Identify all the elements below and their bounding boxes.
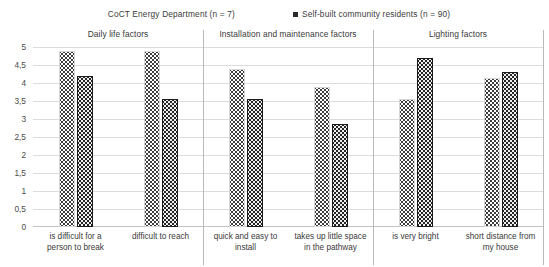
bar-light xyxy=(59,51,75,227)
y-tick-label: 4 xyxy=(21,78,26,88)
y-tick-label: 1,5 xyxy=(14,168,26,178)
legend-label-self-built: Self-built community residents (n = 90) xyxy=(302,9,450,19)
category-label: short distance from my house xyxy=(461,232,540,253)
grouped-bar-chart: CoCT Energy Department (n = 7) Self-buil… xyxy=(0,0,549,267)
axis-baseline xyxy=(33,226,543,227)
gridline xyxy=(33,119,543,120)
panel-separator xyxy=(203,30,204,265)
bar-dark xyxy=(332,124,348,227)
bar-dark xyxy=(77,76,93,227)
category-label: is difficult for a person to break xyxy=(36,232,115,253)
y-tick-label: 1 xyxy=(21,186,26,196)
category-label: is very bright xyxy=(376,232,455,243)
y-tick-label: 3 xyxy=(21,114,26,124)
bar-light xyxy=(399,99,415,227)
panel-separator xyxy=(543,30,544,265)
gridline xyxy=(33,65,543,66)
bar-dark xyxy=(162,99,178,227)
panel-title: Lighting factors xyxy=(373,29,543,39)
gridline xyxy=(33,191,543,192)
category-label: difficult to reach xyxy=(121,232,200,243)
y-tick-label: 4,5 xyxy=(14,60,26,70)
gridline xyxy=(33,137,543,138)
gridline xyxy=(33,101,543,102)
y-tick-label: 5 xyxy=(21,42,26,52)
gridline xyxy=(33,155,543,156)
bar-dark xyxy=(247,99,263,227)
bar-light xyxy=(484,78,500,227)
y-axis-tick-labels: 54,543,532,521,510,50 xyxy=(0,47,30,227)
dark-dotted-swatch-icon xyxy=(293,12,298,17)
gridline xyxy=(33,47,543,48)
gridline xyxy=(33,83,543,84)
plot-area xyxy=(33,47,543,227)
panel-title: Installation and maintenance factors xyxy=(203,29,373,39)
bar-light xyxy=(314,87,330,227)
y-tick-label: 0 xyxy=(21,222,26,232)
gridline xyxy=(33,173,543,174)
panel-separator xyxy=(373,30,374,265)
bar-dark xyxy=(417,58,433,227)
light-dotted-swatch-icon xyxy=(99,12,104,17)
legend-item-self-built: Self-built community residents (n = 90) xyxy=(293,9,450,19)
legend-label-coct: CoCT Energy Department (n = 7) xyxy=(108,9,235,19)
category-label: quick and easy to install xyxy=(206,232,285,253)
chart-legend: CoCT Energy Department (n = 7) Self-buil… xyxy=(0,6,549,22)
bar-dark xyxy=(502,72,518,227)
y-tick-label: 2 xyxy=(21,150,26,160)
gridline xyxy=(33,209,543,210)
bar-light xyxy=(229,69,245,227)
panel-title: Daily life factors xyxy=(33,29,203,39)
y-tick-label: 2,5 xyxy=(14,132,26,142)
y-tick-label: 0,5 xyxy=(14,204,26,214)
category-label: takes up little space in the pathway xyxy=(291,232,370,253)
bar-light xyxy=(144,51,160,227)
y-tick-label: 3,5 xyxy=(14,96,26,106)
legend-item-coct: CoCT Energy Department (n = 7) xyxy=(99,9,235,19)
